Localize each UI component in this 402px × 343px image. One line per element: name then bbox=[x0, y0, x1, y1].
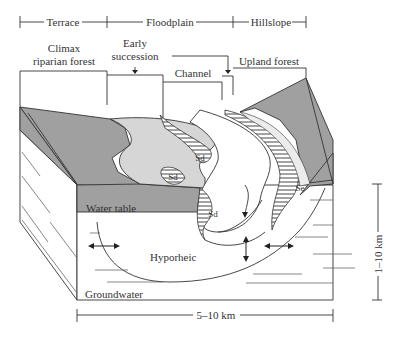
zone-label-floodplain: Floodplain bbox=[146, 16, 194, 28]
arrow-down-icon bbox=[225, 70, 231, 74]
label-channel: Channel bbox=[175, 67, 212, 79]
label-climax-1: Climax bbox=[48, 42, 81, 54]
zone-label-hillslope: Hillslope bbox=[251, 16, 291, 28]
block-diagram: Sd Sd Sd Se bbox=[20, 78, 355, 300]
depth-scale-bar: 1–10 km bbox=[372, 184, 384, 300]
label-sd-2: Sd bbox=[168, 172, 178, 182]
river-corridor-diagram: Terrace Floodplain Hillslope Climax ripa… bbox=[0, 0, 402, 343]
label-depth-scale: 1–10 km bbox=[372, 234, 384, 273]
zone-bracket: Terrace Floodplain Hillslope bbox=[20, 16, 306, 28]
label-water-table: Water table bbox=[86, 202, 136, 214]
label-upland-forest: Upland forest bbox=[239, 55, 299, 67]
width-scale-bar: 5–10 km bbox=[77, 309, 333, 322]
label-groundwater: Groundwater bbox=[85, 288, 143, 300]
label-climax-2: riparian forest bbox=[33, 55, 95, 67]
label-sd-1: Sd bbox=[195, 153, 205, 163]
arrow-down-icon bbox=[132, 70, 138, 74]
label-width-scale: 5–10 km bbox=[197, 309, 236, 321]
label-sd-3: Sd bbox=[208, 209, 218, 219]
label-early-2: succession bbox=[111, 50, 159, 62]
label-hyporheic: Hyporheic bbox=[150, 251, 197, 263]
label-early-1: Early bbox=[123, 37, 147, 49]
zone-label-terrace: Terrace bbox=[47, 16, 80, 28]
